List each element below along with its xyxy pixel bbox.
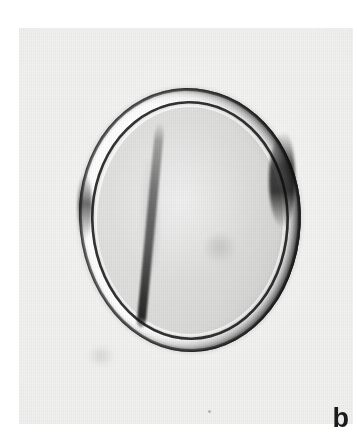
panel-label: b xyxy=(333,405,350,432)
pollen-grain-specimen xyxy=(79,88,301,352)
background-dust-mote xyxy=(208,410,211,413)
figure-root: b xyxy=(0,0,357,438)
photomicrograph-plate xyxy=(19,28,353,424)
protoplast-body xyxy=(97,107,283,334)
